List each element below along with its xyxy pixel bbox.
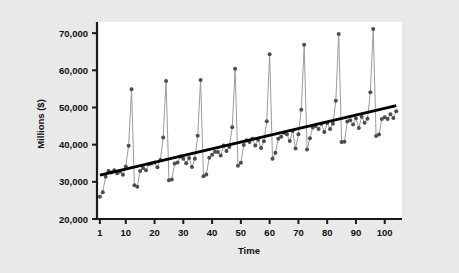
data-point [130,87,134,91]
data-point [138,169,142,173]
data-point [127,144,131,148]
data-point [98,195,102,199]
x-axis-tick-label: 80 [322,227,333,238]
y-axis-tick-label: 60,000 [59,65,88,76]
data-point [259,146,263,150]
data-point [210,153,214,157]
data-point [322,130,326,134]
data-point [371,27,375,31]
data-point [357,126,361,130]
chart-plot: 20,00030,00040,00050,00060,00070,000 110… [0,0,459,273]
data-point [351,123,355,127]
data-point [308,136,312,140]
y-axis-tick-label: 40,000 [59,139,88,150]
data-point [161,136,165,140]
data-point [305,147,309,151]
y-axis-tick-label: 30,000 [59,176,88,187]
data-point [365,117,369,121]
data-point [207,156,211,160]
x-axis-tick-label: 90 [351,227,362,238]
x-axis-tick-label: 40 [207,227,218,238]
x-axis-tick-label: 20 [149,227,160,238]
x-axis-tick-label: 1 [97,227,103,238]
y-axis-tick-label: 20,000 [59,214,88,225]
data-point [193,157,197,161]
data-point [299,108,303,112]
y-axis-tick-label: 70,000 [59,28,88,39]
data-point [190,165,194,169]
data-point [196,134,200,138]
x-axis-tick-label: 100 [377,227,393,238]
data-point [317,127,321,131]
data-point [164,79,168,83]
chart-figure: 20,00030,00040,00050,00060,00070,000 110… [0,0,459,273]
data-point [187,156,191,160]
data-point [184,161,188,165]
data-point [265,119,269,123]
data-point [279,135,283,139]
data-point [368,90,372,94]
data-point [348,118,352,122]
data-point [233,67,237,71]
data-point [268,52,272,56]
data-point [377,133,381,137]
data-point [394,109,398,113]
data-point [144,168,148,172]
data-point [239,161,243,165]
x-axis-tick-label: 50 [236,227,247,238]
data-point [224,149,228,153]
x-axis-tick-label: 70 [293,227,304,238]
data-point [391,116,395,120]
data-point [386,117,390,121]
data-point [242,143,246,147]
y-axis-title: Millions ($) [35,99,46,149]
data-point [101,190,105,194]
data-point [135,185,139,189]
x-axis-tick-label: 10 [120,227,131,238]
y-axis-tick-label: 50,000 [59,102,88,113]
x-axis-tick-label: 30 [178,227,189,238]
data-point [388,112,392,116]
x-axis-tick-label: 60 [264,227,275,238]
data-point [363,121,367,125]
data-point [294,146,298,150]
data-point [342,140,346,144]
data-point [155,165,159,169]
data-point [271,157,275,161]
data-point [176,161,180,165]
data-point [204,172,208,176]
data-point [236,164,240,168]
data-point [230,125,234,129]
data-point [216,150,220,154]
data-point [302,43,306,47]
data-point [253,143,257,147]
data-point [199,78,203,82]
data-point [337,32,341,36]
data-point [331,122,335,126]
data-point [262,139,266,143]
data-point [334,99,338,103]
x-axis-title: Time [238,245,260,256]
data-point [328,127,332,131]
data-point [121,173,125,177]
data-point [273,151,277,155]
data-point [288,139,292,143]
data-point [219,153,223,157]
data-point [170,178,174,182]
data-point [296,132,300,136]
